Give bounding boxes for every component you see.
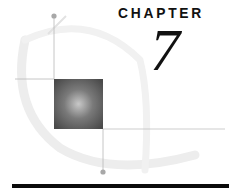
bottom-dot-icon [100,169,105,174]
gradient-square [54,79,103,129]
heading-rule [12,184,229,188]
chapter-number: 7 [150,20,180,80]
top-dot-icon [51,13,56,18]
chapter-emblem-graphic [0,0,229,190]
